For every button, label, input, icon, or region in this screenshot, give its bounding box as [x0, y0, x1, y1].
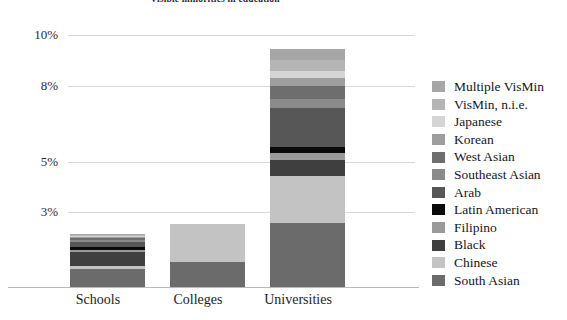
legend-label: Black	[454, 238, 486, 252]
gridline-10: 10%	[68, 35, 415, 36]
y-axis-tick-5: 5%	[41, 154, 58, 170]
bar-segment-south-asian[interactable]	[170, 262, 245, 287]
x-axis-label-colleges: Colleges	[143, 292, 253, 308]
legend-item-arab[interactable]: Arab	[432, 184, 567, 202]
legend-swatch-icon	[432, 222, 445, 233]
bar-segment-filipino[interactable]	[270, 153, 345, 160]
legend-item-multiple-vismin[interactable]: Multiple VisMin	[432, 78, 567, 96]
gridline-8: 8%	[68, 86, 415, 87]
legend-label: West Asian	[454, 150, 515, 164]
legend-item-south-asian[interactable]: South Asian	[432, 272, 567, 290]
bar-segment-south-asian[interactable]	[70, 269, 145, 287]
y-axis-tick-10: 10%	[34, 27, 58, 43]
legend-swatch-icon	[432, 169, 445, 180]
legend-label: Multiple VisMin	[454, 80, 544, 94]
x-axis-label-schools: Schools	[43, 292, 153, 308]
legend-label: Korean	[454, 133, 494, 147]
legend-label: Southeast Asian	[454, 168, 541, 182]
legend-swatch-icon	[432, 152, 445, 163]
bar-segment-multiple-vismin[interactable]	[270, 49, 345, 60]
gridline-5: 5%	[68, 162, 415, 163]
legend-label: Arab	[454, 186, 481, 200]
y-axis-tick-8: 8%	[41, 78, 58, 94]
legend-item-vismin-n-i-e[interactable]: VisMin, n.i.e.	[432, 96, 567, 114]
plot-area: 10%8%5%3% Schools Colleges Universities	[60, 20, 415, 288]
legend-label: VisMin, n.i.e.	[454, 98, 528, 112]
legend-item-japanese[interactable]: Japanese	[432, 113, 567, 131]
legend-swatch-icon	[432, 99, 445, 110]
bar-schools[interactable]	[70, 234, 145, 287]
legend-label: Filipino	[454, 221, 497, 235]
bar-universities[interactable]	[270, 49, 345, 287]
chart-legend: Multiple VisMinVisMin, n.i.e.JapaneseKor…	[432, 78, 567, 289]
legend-swatch-icon	[432, 134, 445, 145]
bar-segment-south-asian[interactable]	[270, 223, 345, 287]
chart-title: Visible minorities in education	[85, 0, 345, 2]
legend-swatch-icon	[432, 257, 445, 268]
bar-segment-vismin-n-i-e[interactable]	[270, 60, 345, 71]
legend-swatch-icon	[432, 187, 445, 198]
y-axis-tick-3: 3%	[41, 204, 58, 220]
bar-segment-black[interactable]	[70, 252, 145, 266]
x-axis-label-universities: Universities	[243, 292, 353, 308]
legend-item-latin-american[interactable]: Latin American	[432, 201, 567, 219]
legend-label: Chinese	[454, 256, 498, 270]
legend-item-west-asian[interactable]: West Asian	[432, 148, 567, 166]
bar-colleges[interactable]	[170, 224, 245, 287]
legend-item-korean[interactable]: Korean	[432, 131, 567, 149]
bar-segment-west-asian[interactable]	[270, 86, 345, 99]
legend-item-black[interactable]: Black	[432, 236, 567, 254]
legend-swatch-icon	[432, 204, 445, 215]
legend-item-filipino[interactable]: Filipino	[432, 219, 567, 237]
bar-segment-chinese[interactable]	[270, 176, 345, 223]
legend-swatch-icon	[432, 240, 445, 251]
legend-label: Latin American	[454, 203, 538, 217]
gridline-3: 3%	[68, 212, 415, 213]
bar-segment-chinese[interactable]	[170, 224, 245, 262]
legend-item-chinese[interactable]: Chinese	[432, 254, 567, 272]
bar-segment-korean[interactable]	[270, 78, 345, 86]
bar-segment-black[interactable]	[270, 160, 345, 176]
legend-label: Japanese	[454, 115, 502, 129]
legend-swatch-icon	[432, 81, 445, 92]
legend-item-southeast-asian[interactable]: Southeast Asian	[432, 166, 567, 184]
legend-swatch-icon	[432, 116, 445, 127]
legend-label: South Asian	[454, 274, 520, 288]
legend-swatch-icon	[432, 275, 445, 286]
x-axis-line	[8, 287, 419, 288]
bar-segment-southeast-asian[interactable]	[270, 99, 345, 109]
stacked-bar-chart: Visible minorities in education 10%8%5%3…	[0, 0, 567, 320]
bar-segment-arab[interactable]	[270, 108, 345, 147]
